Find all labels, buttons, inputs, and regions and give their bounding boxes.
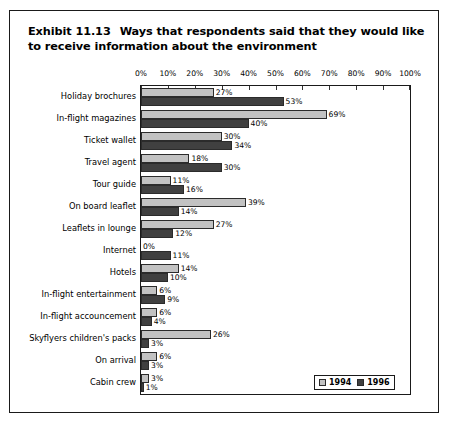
- bar-value-label: 30%: [224, 163, 241, 172]
- bar-value-label: 30%: [224, 132, 241, 141]
- chart: 0%10%20%30%40%50%60%70%80%90%100% Holida…: [10, 11, 440, 414]
- bar-value-label: 11%: [173, 251, 190, 260]
- bar-1996: [141, 119, 249, 128]
- bar-1994: [141, 352, 157, 361]
- bar-1996: [141, 383, 144, 392]
- bar-value-label: 11%: [173, 176, 190, 185]
- bar-1994: [141, 308, 157, 317]
- bar-value-label: 3%: [151, 374, 163, 383]
- bar-1994: [141, 374, 149, 383]
- bar-1996: [141, 97, 284, 106]
- category-label: In-flight entertainment: [42, 289, 136, 299]
- bar-rows: 27%53%69%40%30%34%18%30%11%16%39%14%27%1…: [141, 86, 410, 394]
- x-tick-label: 100%: [399, 69, 421, 78]
- category-label: Ticket wallet: [84, 135, 136, 145]
- bar-value-label: 14%: [181, 207, 198, 216]
- bar-value-label: 26%: [213, 330, 230, 339]
- bar-group: 6%3%: [141, 350, 410, 372]
- exhibit-frame: Exhibit 11.13Ways that respondents said …: [9, 10, 439, 413]
- bar-group: 27%12%: [141, 218, 410, 240]
- bar-1996: [141, 141, 232, 150]
- bar-1996: [141, 317, 152, 326]
- bar-1994: [141, 154, 189, 163]
- category-label: Skyflyers children's packs: [29, 333, 136, 343]
- x-tick-label: 30%: [213, 69, 230, 78]
- bar-1994: [141, 264, 179, 273]
- bar-value-label: 6%: [159, 308, 171, 317]
- bar-1996: [141, 207, 179, 216]
- x-tick-label: 90%: [375, 69, 392, 78]
- bar-value-label: 18%: [191, 154, 208, 163]
- bar-group: 6%9%: [141, 284, 410, 306]
- bar-group: 14%10%: [141, 262, 410, 284]
- bar-value-label: 69%: [329, 110, 346, 119]
- category-label: In-flight magazines: [56, 113, 136, 123]
- x-tick-label: 80%: [348, 69, 365, 78]
- bar-1996: [141, 361, 149, 370]
- bar-1994: [141, 132, 222, 141]
- legend-swatch-icon: [319, 379, 326, 386]
- bar-1994: [141, 220, 214, 229]
- bar-value-label: 39%: [248, 198, 265, 207]
- bar-group: 18%30%: [141, 152, 410, 174]
- bar-value-label: 9%: [167, 295, 179, 304]
- bar-value-label: 12%: [175, 229, 192, 238]
- bar-group: 30%34%: [141, 130, 410, 152]
- bar-1996: [141, 339, 149, 348]
- legend-swatch-icon: [357, 379, 364, 386]
- x-tick-label: 60%: [294, 69, 311, 78]
- bar-1996: [141, 273, 168, 282]
- bar-value-label: 3%: [151, 339, 163, 348]
- legend-label: 1994: [329, 378, 351, 387]
- bar-1994: [141, 286, 157, 295]
- bar-value-label: 27%: [216, 88, 233, 97]
- x-tick-label: 20%: [186, 69, 203, 78]
- chart-legend: 19941996: [314, 375, 395, 390]
- bar-value-label: 3%: [151, 361, 163, 370]
- category-label: Tour guide: [93, 179, 136, 189]
- x-tick-label: 70%: [321, 69, 338, 78]
- bar-1996: [141, 163, 222, 172]
- bar-1994: [141, 88, 214, 97]
- bar-1996: [141, 251, 171, 260]
- x-axis-tick-labels: 0%10%20%30%40%50%60%70%80%90%100%: [140, 69, 411, 81]
- bar-group: 6%4%: [141, 306, 410, 328]
- bar-value-label: 4%: [154, 317, 166, 326]
- x-tick-label: 0%: [135, 69, 147, 78]
- bar-group: 0%11%: [141, 240, 410, 262]
- category-label: On arrival: [95, 355, 136, 365]
- bar-group: 11%16%: [141, 174, 410, 196]
- bar-value-label: 16%: [186, 185, 203, 194]
- category-label: Cabin crew: [90, 377, 136, 387]
- bar-1994: [141, 330, 211, 339]
- bar-value-label: 1%: [146, 383, 158, 392]
- bar-value-label: 0%: [143, 242, 155, 251]
- x-tick-label: 10%: [159, 69, 176, 78]
- bar-1996: [141, 185, 184, 194]
- category-label: Hotels: [110, 267, 136, 277]
- bar-value-label: 40%: [251, 119, 268, 128]
- category-label: Internet: [103, 245, 136, 255]
- plot-area: 27%53%69%40%30%34%18%30%11%16%39%14%27%1…: [140, 85, 411, 395]
- bar-value-label: 53%: [286, 97, 303, 106]
- category-label: In-flight accouncement: [40, 311, 136, 321]
- category-label: Holiday brochures: [61, 91, 136, 101]
- bar-1994: [141, 176, 171, 185]
- bar-group: 69%40%: [141, 108, 410, 130]
- bar-1994: [141, 198, 246, 207]
- bar-1994: [141, 110, 327, 119]
- bar-value-label: 14%: [181, 264, 198, 273]
- legend-item-1994: 1994: [319, 378, 351, 387]
- legend-item-1996: 1996: [357, 378, 389, 387]
- legend-label: 1996: [367, 378, 389, 387]
- bar-group: 27%53%: [141, 86, 410, 108]
- x-tick-label: 40%: [240, 69, 257, 78]
- category-label: On board leaflet: [69, 201, 136, 211]
- bar-value-label: 6%: [159, 286, 171, 295]
- bar-group: 26%3%: [141, 328, 410, 350]
- category-label: Leaflets in lounge: [62, 223, 136, 233]
- x-tick-label: 50%: [267, 69, 284, 78]
- bar-value-label: 27%: [216, 220, 233, 229]
- category-axis-labels: Holiday brochuresIn-flight magazinesTick…: [20, 85, 136, 395]
- bar-value-label: 34%: [234, 141, 251, 150]
